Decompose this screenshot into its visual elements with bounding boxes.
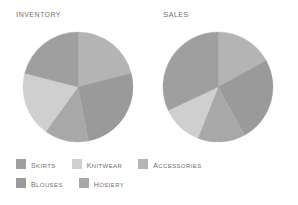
legend-item-hosiery[interactable]: Hosiery — [79, 177, 124, 189]
legend-swatch-blouses — [16, 178, 26, 188]
legend-swatch-knitwear — [72, 159, 82, 169]
legend-label-blouses: Blouses — [31, 177, 63, 189]
chart-title-inventory: Inventory — [16, 7, 61, 19]
legend-label-knitwear: Knitwear — [87, 158, 123, 170]
legend-swatch-accessories — [138, 159, 148, 169]
chart-legend: SkirtsKnitwearAccessoriesBlousesHosiery — [16, 154, 282, 192]
pie-inventory-svg — [22, 31, 134, 143]
pie-chart-sales — [162, 31, 274, 143]
legend-item-knitwear[interactable]: Knitwear — [72, 158, 123, 170]
legend-row: SkirtsKnitwearAccessories — [16, 154, 282, 173]
pie-chart-inventory — [22, 31, 134, 143]
pie-inventory-slices — [23, 32, 133, 142]
pie-sales-slices — [163, 32, 273, 142]
chart-title-sales: Sales — [163, 7, 189, 19]
legend-swatch-skirts — [16, 159, 26, 169]
legend-swatch-hosiery — [79, 178, 89, 188]
legend-label-accessories: Accessories — [153, 158, 201, 170]
legend-label-hosiery: Hosiery — [94, 177, 124, 189]
pie-chart-figure: Inventory Sales SkirtsKnitwearAccessorie… — [0, 0, 298, 205]
legend-row: BlousesHosiery — [16, 173, 282, 192]
legend-item-skirts[interactable]: Skirts — [16, 158, 56, 170]
legend-label-skirts: Skirts — [31, 158, 56, 170]
legend-item-blouses[interactable]: Blouses — [16, 177, 63, 189]
legend-item-accessories[interactable]: Accessories — [138, 158, 201, 170]
pie-sales-svg — [162, 31, 274, 143]
